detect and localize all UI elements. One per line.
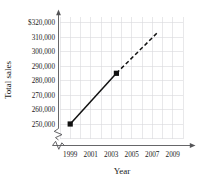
y-tick-label: 310,000 — [32, 34, 56, 42]
x-axis — [53, 143, 196, 148]
x-tick-label: 2003 — [104, 151, 119, 159]
x-tick-label: 2005 — [125, 151, 140, 159]
x-axis-tick-labels: 1999 2001 2003 2005 2007 2009 — [63, 151, 180, 159]
data-point-2004 — [114, 71, 119, 76]
x-tick-label: 2001 — [84, 151, 99, 159]
x-axis-title: Year — [114, 166, 131, 176]
data-point-1999 — [68, 121, 73, 126]
y-tick-label: 250,000 — [32, 121, 56, 129]
x-tick-label: 2007 — [145, 151, 160, 159]
y-axis-title: Total sales — [3, 60, 13, 99]
y-tick-label: 260,000 — [32, 106, 56, 114]
y-tick-label: 300,000 — [32, 48, 56, 56]
observed-trend-line — [70, 73, 116, 124]
y-tick-label: 290,000 — [32, 63, 56, 71]
y-axis-tick-labels: $320,000 310,000 300,000 290,000 280,000… — [28, 19, 55, 129]
y-tick-label: 280,000 — [32, 77, 56, 85]
sales-line-chart: $320,000 310,000 300,000 290,000 280,000… — [0, 0, 211, 180]
x-tick-label: 2009 — [166, 151, 181, 159]
x-tick-label: 1999 — [63, 151, 78, 159]
y-tick-label: $320,000 — [28, 19, 55, 27]
grid-vertical — [60, 17, 183, 139]
projected-trend-line — [116, 33, 157, 74]
y-tick-label: 270,000 — [32, 92, 56, 100]
chart-canvas: $320,000 310,000 300,000 290,000 280,000… — [0, 0, 211, 180]
